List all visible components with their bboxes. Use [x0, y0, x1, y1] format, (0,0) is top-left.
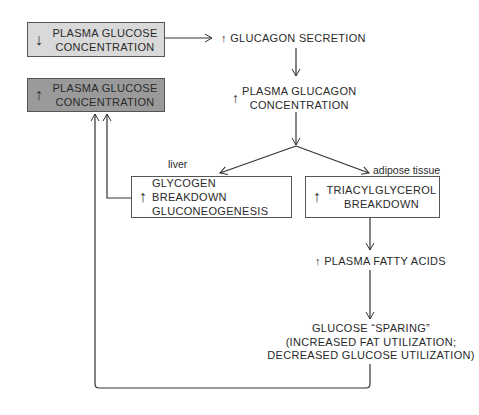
down-arrow-icon: ↓	[32, 31, 46, 49]
gluconeogenesis-label: GLUCONEOGENESIS	[152, 204, 268, 218]
up-arrow-icon: ↑	[232, 90, 239, 106]
triacylglycerol-label: TRIACYLGLYCEROL	[326, 183, 436, 197]
plasma-glucagon-line1: PLASMA GLUCAGON	[242, 84, 357, 98]
up-arrow-icon: ↑	[221, 32, 227, 44]
liver-label: liver	[168, 157, 187, 171]
plasma-glucagon-node: ↑ PLASMA GLUCAGON CONCENTRATION	[232, 84, 357, 112]
up-arrow-icon: ↑	[310, 188, 324, 206]
liver-effects-box: ↑ GLYCOGEN BREAKDOWN GLUCONEOGENESIS	[131, 176, 292, 218]
increased-fat-utilization: (INCREASED FAT UTILIZATION;	[286, 336, 457, 350]
glucagon-secretion-node: ↑ GLUCAGON SECRETION	[221, 31, 366, 45]
plasma-fatty-acids-label: PLASMA FATTY ACIDS	[324, 255, 446, 267]
low-plasma-glucose-box: ↓ PLASMA GLUCOSE CONCENTRATION	[27, 22, 165, 57]
up-arrow-icon: ↑	[136, 188, 150, 206]
high-plasma-glucose-box: ↑ PLASMA GLUCOSE CONCENTRATION	[27, 78, 165, 112]
low-glucose-line2: CONCENTRATION	[55, 40, 154, 54]
high-glucose-line2: CONCENTRATION	[55, 95, 154, 109]
adipose-effects-box: ↑ TRIACYLGLYCEROL BREAKDOWN	[305, 176, 440, 218]
glucose-sparing-title: GLUCOSE “SPARING”	[312, 322, 430, 336]
adipose-tissue-label: adipose tissue	[373, 163, 440, 177]
plasma-glucagon-line2: CONCENTRATION	[250, 98, 349, 112]
up-arrow-icon: ↑	[315, 255, 321, 267]
plasma-fatty-acids-node: ↑ PLASMA FATTY ACIDS	[315, 254, 446, 268]
up-arrow-icon: ↑	[32, 86, 46, 104]
high-glucose-line1: PLASMA GLUCOSE	[52, 81, 157, 95]
breakdown-label: BREAKDOWN	[344, 197, 419, 211]
decreased-glucose-utilization: DECREASED GLUCOSE UTILIZATION)	[267, 349, 474, 363]
glycogen-breakdown-label: GLYCOGEN BREAKDOWN	[152, 176, 291, 204]
low-glucose-line1: PLASMA GLUCOSE	[52, 26, 157, 40]
glucagon-secretion-label: GLUCAGON SECRETION	[230, 32, 366, 44]
glucose-sparing-node: GLUCOSE “SPARING” (INCREASED FAT UTILIZA…	[240, 322, 479, 363]
